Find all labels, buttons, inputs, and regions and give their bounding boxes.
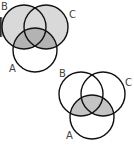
- label-b: B: [1, 1, 8, 12]
- label-a: A: [9, 63, 16, 74]
- label-c: C: [69, 9, 76, 20]
- venn-top: B C A: [1, 1, 76, 74]
- venn-diagrams: B C A B C A: [0, 0, 134, 148]
- label-a: A: [66, 130, 73, 141]
- label-b: B: [59, 68, 66, 79]
- label-c: C: [125, 77, 132, 88]
- venn-bottom: B C A: [59, 68, 132, 141]
